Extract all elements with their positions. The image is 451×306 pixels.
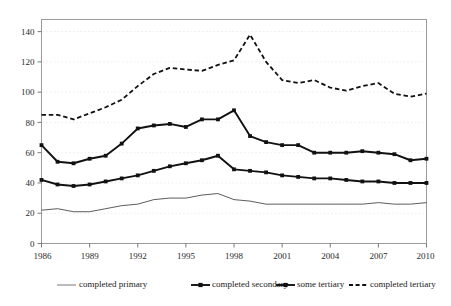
legend-label-completed-primary: completed primary: [79, 279, 148, 289]
data-point-marker: [409, 181, 413, 185]
x-axis-tick-labels: 198619891992199519982001200420072010: [34, 251, 436, 261]
data-point-marker: [168, 164, 172, 168]
data-point-marker: [88, 183, 92, 187]
data-point-marker: [72, 161, 76, 165]
data-point-marker: [152, 169, 156, 173]
data-point-marker: [88, 157, 92, 161]
data-point-marker: [376, 151, 380, 155]
data-point-marker: [425, 181, 429, 185]
chart-legend: completed primarycompleted secondarysome…: [57, 279, 436, 289]
chart-container: 020406080100120140 198619891992199519982…: [0, 0, 451, 306]
y-axis-tick-label: 140: [21, 27, 35, 37]
line-chart: 020406080100120140 198619891992199519982…: [0, 0, 451, 306]
data-point-marker: [200, 117, 204, 121]
data-point-marker: [425, 157, 429, 161]
data-point-marker: [184, 125, 188, 129]
data-point-marker: [232, 167, 236, 171]
data-point-marker: [168, 122, 172, 126]
legend-marker-square: [283, 283, 287, 287]
data-point-marker: [232, 108, 236, 112]
data-point-marker: [344, 151, 348, 155]
data-point-marker: [72, 184, 76, 188]
legend-label-completed-tertiary: completed tertiary: [370, 279, 436, 289]
data-point-marker: [296, 175, 300, 179]
series-line-completed-primary: [42, 194, 427, 212]
data-point-marker: [40, 178, 44, 182]
data-point-marker: [280, 173, 284, 177]
data-point-marker: [409, 158, 413, 162]
y-axis-tick-label: 100: [21, 87, 35, 97]
data-point-marker: [120, 142, 124, 146]
y-axis-tick-label: 80: [26, 118, 36, 128]
data-point-marker: [360, 149, 364, 153]
data-point-marker: [216, 117, 220, 121]
legend-marker-square: [198, 283, 202, 287]
y-axis-tick-label: 20: [26, 208, 36, 218]
data-point-marker: [360, 180, 364, 184]
x-axis-tick-label: 2007: [369, 251, 388, 261]
data-point-marker: [393, 152, 397, 156]
y-axis-tick-label: 0: [30, 239, 35, 249]
x-axis-tick-label: 2004: [321, 251, 340, 261]
data-point-marker: [312, 151, 316, 155]
data-point-marker: [40, 143, 44, 147]
series-line-some-tertiary: [42, 110, 427, 163]
x-axis-tick-label: 2010: [417, 251, 436, 261]
data-point-marker: [393, 181, 397, 185]
data-point-marker: [136, 173, 140, 177]
data-point-marker: [248, 134, 252, 138]
legend-label-some-tertiary: some tertiary: [297, 279, 345, 289]
x-axis-tick-label: 1998: [225, 251, 244, 261]
data-point-marker: [56, 160, 60, 164]
data-point-marker: [120, 177, 124, 181]
y-axis-tick-label: 60: [26, 148, 36, 158]
data-point-marker: [296, 143, 300, 147]
y-axis-tick-label: 120: [21, 57, 35, 67]
series-line-completed-tertiary: [42, 35, 427, 120]
data-point-marker: [152, 124, 156, 128]
data-point-marker: [248, 169, 252, 173]
data-point-marker: [264, 170, 268, 174]
data-point-marker: [328, 151, 332, 155]
gridlines: [43, 32, 426, 214]
data-series-layer: [40, 35, 429, 212]
data-point-marker: [376, 180, 380, 184]
x-axis-tick-label: 1995: [177, 251, 196, 261]
data-point-marker: [216, 154, 220, 158]
y-axis-tick-label: 40: [26, 178, 36, 188]
data-point-marker: [344, 178, 348, 182]
x-axis-tick-label: 2001: [273, 251, 291, 261]
x-axis-tick-label: 1989: [81, 251, 100, 261]
x-axis-tick-label: 1992: [129, 251, 147, 261]
data-point-marker: [184, 161, 188, 165]
data-point-marker: [312, 177, 316, 181]
data-point-marker: [104, 154, 108, 158]
x-axis-tick-label: 1986: [34, 251, 53, 261]
data-point-marker: [136, 127, 140, 131]
data-point-marker: [200, 158, 204, 162]
data-point-marker: [264, 140, 268, 144]
data-point-marker: [56, 183, 60, 187]
y-axis-tick-labels: 020406080100120140: [21, 27, 35, 249]
data-point-marker: [328, 177, 332, 181]
data-point-marker: [280, 143, 284, 147]
data-point-marker: [104, 180, 108, 184]
